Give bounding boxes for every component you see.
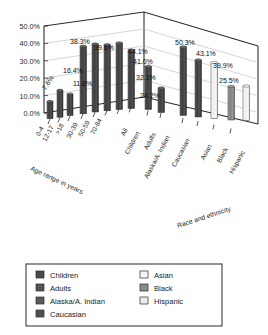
data-label: 44.1% — [128, 48, 148, 55]
data-label: 32.1% — [136, 74, 156, 81]
bar-age-group-extra — [104, 44, 111, 111]
data-label: 41.0% — [133, 58, 153, 65]
bar-race-hispanic — [243, 85, 250, 121]
data-label: 25.5% — [219, 77, 239, 84]
y-tick-label: 50.0% — [20, 22, 41, 31]
y-tick-label: 10.0% — [20, 92, 41, 101]
bar-age-50-59 — [92, 43, 99, 112]
legend-label-asian: Asian — [154, 271, 173, 280]
legend-label-children: Children — [50, 271, 78, 280]
legend-label-caucasian: Caucasian — [50, 310, 86, 319]
legend-swatch-adults — [36, 284, 44, 291]
legend-swatch-hispanic — [140, 297, 148, 304]
data-label: 39.6% — [94, 44, 114, 51]
data-label: 11.8% — [73, 80, 92, 87]
bar-race-children — [145, 65, 152, 109]
legend-label-adults: Adults — [50, 284, 71, 293]
data-label: 16.4% — [63, 67, 83, 74]
legend-swatch-children — [36, 271, 44, 278]
legend-swatch-black — [140, 284, 148, 291]
bar-race-caucasian — [195, 59, 202, 117]
chart-container: 50.0% 40.0% 30.0% 20.0% 10.0% 0.0% — [0, 0, 268, 335]
data-label: 43.1% — [196, 50, 216, 57]
data-label: 39.9% — [213, 62, 233, 69]
bar-race-adults — [158, 87, 165, 113]
legend-swatch-caucasian — [36, 310, 44, 317]
bar-race-asian — [211, 61, 218, 118]
legend-label-black: Black — [154, 284, 173, 293]
bar-race-alaska-indian — [180, 46, 187, 116]
y-tick-label: 30.0% — [20, 57, 41, 66]
data-label: 38.3% — [70, 38, 90, 45]
bar-race-black — [228, 85, 235, 120]
legend-label-alaska-indian: Alaska/A. Indian — [50, 297, 105, 306]
y-tick-label: 40.0% — [20, 39, 41, 48]
y-tick-label: 20.0% — [20, 74, 41, 83]
bar-age-12-17 — [57, 89, 63, 117]
bar-age-0-4 — [47, 100, 53, 118]
y-tick-label: 0.0% — [24, 109, 41, 118]
legend-swatch-alaska-indian — [36, 297, 44, 304]
data-label: 24.2% — [140, 92, 160, 99]
legend-swatch-asian — [140, 271, 148, 278]
bar-age-over-18 — [67, 93, 73, 116]
bar-age-70-84 — [116, 42, 123, 110]
legend: Children Adults Alaska/A. Indian Caucasi… — [26, 264, 222, 326]
data-label: 50.3% — [175, 39, 195, 46]
legend-label-hispanic: Hispanic — [154, 297, 183, 306]
